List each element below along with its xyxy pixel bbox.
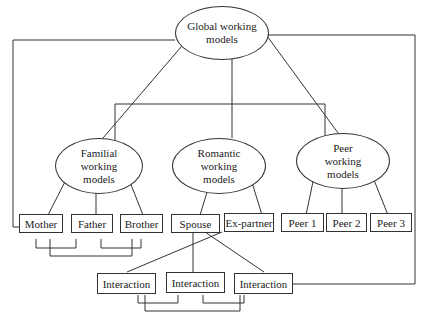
brother-label: Brother	[125, 218, 159, 230]
peer-1-label: Peer 1	[289, 217, 317, 229]
peer-1-box: Peer 1	[281, 213, 324, 232]
interaction-2-label: Interaction	[172, 277, 220, 289]
romantic-working-models-label: Romantic working models	[198, 147, 241, 186]
peer-3-label: Peer 3	[377, 217, 405, 229]
global-working-models-node: Global working models	[175, 6, 269, 60]
brother-box: Brother	[120, 214, 163, 233]
romantic-working-models-node: Romantic working models	[172, 138, 266, 194]
spouse-label: Spouse	[180, 218, 212, 230]
peer-working-models-node: Peer working models	[296, 133, 390, 189]
familial-working-models-node: Familial working models	[55, 138, 143, 194]
father-box: Father	[71, 214, 113, 233]
peer-2-box: Peer 2	[326, 213, 367, 232]
peer-2-label: Peer 2	[333, 217, 361, 229]
interaction-1-label: Interaction	[103, 278, 151, 290]
ex-partner-box: Ex-partner	[224, 213, 274, 232]
mother-label: Mother	[25, 218, 57, 230]
father-label: Father	[78, 218, 106, 230]
interaction-1-box: Interaction	[97, 273, 156, 294]
mother-box: Mother	[19, 214, 63, 233]
interaction-3-box: Interaction	[234, 273, 293, 294]
peer-3-box: Peer 3	[370, 213, 412, 232]
interaction-2-box: Interaction	[166, 272, 225, 293]
familial-working-models-label: Familial working models	[81, 147, 118, 186]
ex-partner-label: Ex-partner	[225, 217, 272, 229]
spouse-box: Spouse	[171, 214, 220, 233]
global-working-models-label: Global working models	[187, 20, 256, 46]
peer-working-models-label: Peer working models	[325, 142, 362, 181]
interaction-3-label: Interaction	[240, 278, 288, 290]
